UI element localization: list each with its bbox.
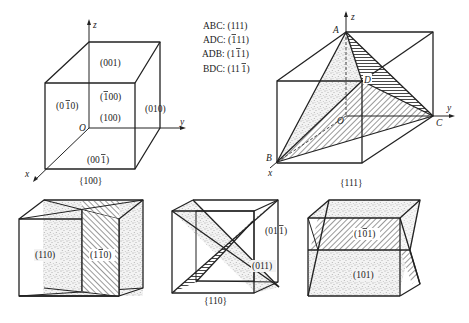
prism-101-panel: (101) (101) <box>308 200 420 296</box>
cross-011-panel: (011) (011) {110} <box>172 200 287 306</box>
legend-row-adc: ADC: (111) <box>203 35 249 47</box>
legend-row-bdc: BDC: (111) <box>203 64 250 76</box>
z-axis-arrow-icon <box>344 11 348 17</box>
svg-text:(1: (1 <box>90 250 98 261</box>
svg-text:0): 0) <box>71 101 79 112</box>
vertex-b-label: B <box>266 153 272 163</box>
svg-text:(0: (0 <box>56 101 64 112</box>
prism-110-panel: (110) (110) <box>19 200 143 297</box>
face-label-110: (110) <box>35 250 55 261</box>
svg-text:0): 0) <box>104 250 112 261</box>
svg-text:00): 00) <box>109 92 122 103</box>
plane-legend: ABC: (111) ADC: (111) ADB: (111) BDC: (1… <box>202 21 250 75</box>
face-label-100: (100) <box>100 113 121 124</box>
svg-text:): ) <box>106 155 109 166</box>
svg-text:BDC: (11: BDC: (11 <box>203 64 240 75</box>
x-axis-arrow-icon <box>33 176 38 182</box>
svg-text:1): 1) <box>368 229 376 240</box>
origin-label: O <box>337 116 344 126</box>
x-axis-label: x <box>24 169 30 179</box>
caption-100: {100} <box>79 176 102 186</box>
svg-text:11): 11) <box>237 35 249 46</box>
y-axis-label: y <box>179 117 185 127</box>
vertex-a-label: A <box>332 25 339 35</box>
face-label-0-10: (010) <box>56 101 78 113</box>
face-label-011: (011) <box>252 261 272 272</box>
caption-111: {111} <box>340 178 363 188</box>
face-label-10-1: (101) <box>354 229 375 241</box>
face-label-010: (010) <box>145 104 166 115</box>
face-label-00-1: (001) <box>87 155 109 167</box>
vertex-c-label: C <box>436 118 443 128</box>
vertex-d-label: D <box>363 75 371 85</box>
face-label--100: (100) <box>100 92 121 104</box>
cube-top-diagonal-edge <box>362 32 433 81</box>
crystal-planes-figure: z y x O (001) (010) (100) (100) (010) (0… <box>0 0 469 323</box>
legend-row-abc: ABC: (111) <box>203 21 247 32</box>
legend-row-adb: ADB: (111) <box>202 49 249 61</box>
svg-text:): ) <box>284 226 287 237</box>
origin-label: O <box>79 123 86 133</box>
tetra-111-panel: z y x O A B C D {111} <box>266 11 455 188</box>
svg-text:ADC: (: ADC: ( <box>203 35 231 46</box>
cube-100-panel: z y x O (001) (010) (100) (100) (010) (0… <box>24 19 186 186</box>
svg-text:ABC: (111): ABC: (111) <box>203 21 247 32</box>
face-label-1-10: (110) <box>90 250 111 262</box>
z-axis-label: z <box>92 20 97 30</box>
y-axis-label: y <box>446 103 452 113</box>
z-axis-label: z <box>350 12 355 22</box>
face-label-101: (101) <box>353 270 374 281</box>
svg-text:(01: (01 <box>265 226 278 237</box>
face-label-01-1: (011) <box>265 226 287 238</box>
x-axis-label: x <box>267 168 273 178</box>
svg-text:): ) <box>247 64 250 75</box>
z-axis-arrow-icon <box>87 19 91 25</box>
svg-text:(1: (1 <box>354 229 362 240</box>
svg-text:1): 1) <box>241 49 249 60</box>
svg-text:(00: (00 <box>87 155 100 166</box>
caption-110: {110} <box>204 296 227 306</box>
svg-text:ADB: (1: ADB: (1 <box>202 49 235 60</box>
y-axis-arrow-icon <box>449 114 455 118</box>
face-label-001: (001) <box>100 58 121 69</box>
x-axis <box>35 128 89 180</box>
